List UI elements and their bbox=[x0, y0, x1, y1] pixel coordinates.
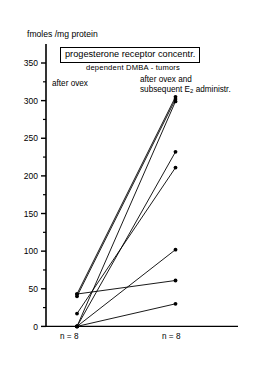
slope-chart-svg: 050100150200250300350 bbox=[0, 0, 254, 370]
slope-lines bbox=[77, 97, 176, 327]
data-point bbox=[75, 312, 79, 316]
y-tick-label: 300 bbox=[24, 96, 38, 106]
y-axis-tick-labels: 050100150200250300350 bbox=[24, 58, 38, 331]
n-label-right: n = 8 bbox=[162, 332, 180, 341]
data-point bbox=[75, 292, 79, 296]
y-tick-label: 350 bbox=[24, 58, 38, 68]
y-tick-label: 200 bbox=[24, 171, 38, 181]
n-label-left: n = 8 bbox=[60, 332, 78, 341]
data-point bbox=[174, 99, 178, 103]
y-tick-label: 100 bbox=[24, 246, 38, 256]
slope-line bbox=[77, 280, 176, 294]
data-point bbox=[174, 150, 178, 154]
y-tick-label: 0 bbox=[33, 322, 38, 332]
slope-line bbox=[77, 152, 176, 327]
data-point bbox=[174, 166, 178, 170]
slope-line bbox=[77, 101, 176, 326]
slope-line bbox=[77, 99, 176, 296]
data-point bbox=[174, 248, 178, 252]
y-tick-label: 50 bbox=[29, 284, 39, 294]
data-point bbox=[174, 279, 178, 283]
data-point bbox=[75, 325, 79, 329]
y-tick-label: 150 bbox=[24, 209, 38, 219]
slope-line bbox=[77, 97, 176, 294]
y-tick-label: 250 bbox=[24, 133, 38, 143]
figure-panel: fmoles /mg protein progesterone receptor… bbox=[0, 0, 254, 370]
data-point bbox=[174, 302, 178, 306]
